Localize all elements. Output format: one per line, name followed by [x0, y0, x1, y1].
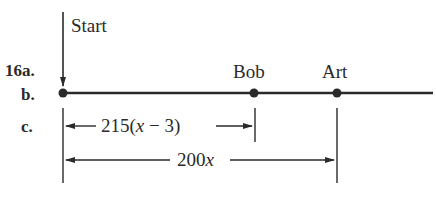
art-distance-label: 200x	[174, 150, 217, 169]
diagram: 16a. b. c. Start Bob Art 215(x − 3) 200x	[0, 0, 436, 198]
bob-point	[250, 89, 259, 98]
problem-label-a: 16a.	[5, 62, 35, 79]
art-distance-coef: 200	[177, 149, 206, 170]
art-label: Art	[322, 62, 347, 81]
bob-distance-coef: 215(	[101, 115, 136, 136]
bob-label: Bob	[233, 62, 265, 81]
diagram-graphics	[0, 0, 436, 198]
problem-label-c: c.	[21, 118, 33, 135]
art-distance-var: x	[206, 149, 214, 170]
bob-distance-var: x	[136, 115, 144, 136]
start-label: Start	[71, 16, 107, 35]
bob-distance-label: 215(x − 3)	[98, 116, 183, 135]
problem-label-b: b.	[21, 86, 35, 103]
start-point	[59, 89, 68, 98]
bob-distance-rest: − 3)	[144, 115, 180, 136]
art-point	[333, 89, 342, 98]
